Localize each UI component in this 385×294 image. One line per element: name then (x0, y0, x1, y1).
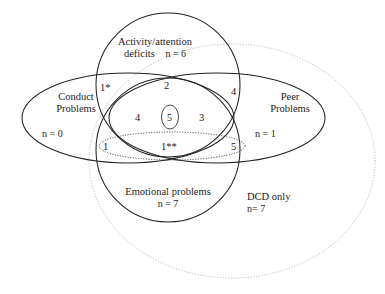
set-label-emotional: Emotional problems n = 7 (106, 186, 230, 210)
region-count-activity-top-center: 2 (164, 80, 169, 91)
venn-diagram: Activity/attention deficits n = 6 Conduc… (0, 0, 385, 294)
set-count-conduct: n = 0 (42, 128, 63, 140)
set-count-activity: n = 6 (165, 48, 186, 59)
set-outline-dcd (89, 44, 375, 278)
region-count-activity-peer: 4 (231, 86, 236, 97)
region-count-peer-emotional: 5 (231, 141, 236, 152)
set-outline-peer (109, 73, 325, 163)
set-label-activity-line2: deficits (124, 48, 155, 59)
region-count-emotional-dcd-center: 1** (161, 141, 177, 152)
set-label-activity: Activity/attention deficits n = 6 (108, 36, 202, 61)
region-count-activity-peer-emotional: 3 (199, 112, 204, 123)
region-count-all-four-center: 5 (167, 112, 172, 123)
set-label-emotional-line1: Emotional problems (106, 186, 230, 198)
region-count-conduct-activity-emotional: 4 (135, 112, 140, 123)
set-count-dcd: n= 7 (247, 203, 317, 215)
region-count-conduct-emotional: 1 (103, 141, 108, 152)
set-label-dcd: DCD only n= 7 (247, 191, 317, 215)
set-label-peer-line1: Peer (250, 91, 330, 103)
set-label-dcd-line1: DCD only (247, 191, 317, 203)
set-label-conduct: Conduct Problems (36, 91, 116, 116)
set-label-activity-line1: Activity/attention (108, 36, 202, 48)
set-label-peer: Peer Problems (250, 91, 330, 116)
set-count-peer: n = 1 (255, 128, 276, 140)
set-label-peer-line2: Problems (250, 103, 330, 115)
region-count-conduct-activity: 1* (100, 82, 111, 93)
set-count-emotional: n = 7 (106, 198, 230, 210)
set-label-conduct-line2: Problems (36, 103, 116, 115)
